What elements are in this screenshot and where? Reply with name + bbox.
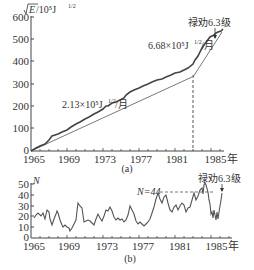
y-tick-label: 400 [13,55,30,67]
chart-a-y-tick-labels: 600 500 400 300 200 100 0 [13,11,30,156]
trend-line-early [31,77,192,151]
y-tick-label: 300 [13,78,30,90]
svg-text:/月: /月 [115,99,128,110]
x-tick-label: 1981 [169,240,191,252]
chart-b-y-label: N [32,175,41,186]
event-annotation-a: 禄劝6.3级 [188,16,231,28]
arrow-down-icon [220,184,224,192]
x-tick-label: 1969 [58,153,81,165]
chart-b: 50 40 30 20 10 0 1965 1969 1973 1977 198… [18,172,241,265]
chart-b-x-tick-labels: 1965 1969 1973 1977 1981 1985年 [23,239,239,252]
svg-text:1/2: 1/2 [68,3,76,9]
slope-annotation-late: 6.68×10⁵J 1/2 /月 [148,39,214,51]
n-series-line [34,183,222,231]
y-tick-label: 600 [13,11,30,23]
y-tick-label: 200 [13,100,30,112]
y-tick-label: 100 [13,122,30,134]
svg-text:2.13×10⁵J: 2.13×10⁵J [62,99,103,110]
x-tick-label: 1985年 [206,239,239,252]
svg-text:E: E [28,4,35,15]
chart-a: 600 500 400 300 200 100 0 1965 1969 1973… [13,3,238,175]
svg-text:/月: /月 [201,40,214,51]
cumulative-sqrt-e-curve [31,29,223,151]
x-tick-label: 1965 [23,240,46,252]
x-tick-label: 1977 [130,153,153,165]
panel-label-a: (a) [121,163,132,175]
figure: 600 500 400 300 200 100 0 1965 1969 1973… [0,0,254,270]
x-tick-label: 1985年 [205,152,238,165]
svg-text:6.68×10⁵J: 6.68×10⁵J [148,40,189,51]
svg-text:/10⁵J: /10⁵J [36,4,56,15]
y-tick-label: 500 [13,33,30,45]
chart-a-y-label: E /10⁵J 1/2 [24,3,76,15]
chart-b-y-tick-labels: 50 40 30 20 10 0 [18,178,30,243]
panel-label-b: (b) [124,253,136,265]
x-tick-label: 1981 [166,153,188,165]
x-tick-label: 1965 [23,153,46,165]
x-tick-label: 1973 [94,153,117,165]
slope-annotation-early: 2.13×10⁵J 1/2 /月 [62,98,128,110]
x-tick-label: 1969 [58,240,81,252]
x-tick-label: 1973 [96,240,119,252]
x-tick-label: 1977 [132,240,155,252]
event-annotation-b: 禄劝6.3级 [198,172,241,184]
